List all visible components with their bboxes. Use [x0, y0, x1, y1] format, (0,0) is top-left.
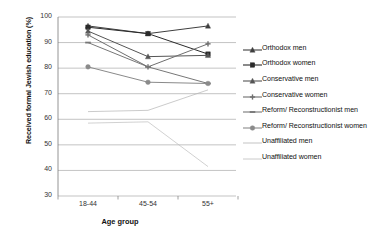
x-axis-title: Age group [0, 217, 240, 226]
legend-item[interactable]: Unaffiliated men [243, 134, 383, 150]
legend-marker-icon [243, 120, 262, 132]
data-point-marker [86, 65, 91, 70]
series-line [88, 35, 208, 67]
legend-item-label: Conservative men [262, 75, 318, 83]
chart-legend: Orthodox menOrthodox womenConservative m… [243, 40, 383, 165]
legend-marker-icon [243, 151, 262, 163]
legend-item[interactable]: Unaffiliated women [243, 149, 383, 165]
data-point-marker [250, 125, 255, 130]
series-line [88, 122, 208, 167]
data-point-marker [250, 63, 254, 67]
series-orthodox-women [86, 25, 210, 56]
series-unaffiliated-men [88, 90, 208, 112]
series-line [88, 90, 208, 112]
legend-item[interactable]: Conservative women [243, 87, 383, 103]
legend-item-label: Reform/ Reconstructionist women [262, 122, 367, 130]
legend-marker-icon [243, 135, 262, 147]
data-point-marker [205, 23, 210, 28]
legend-item[interactable]: Reform/ Reconstructionist men [243, 102, 383, 118]
legend-item-label: Orthodox women [262, 59, 315, 67]
data-point-marker [146, 80, 151, 85]
legend-item-label: Unaffiliated women [262, 153, 321, 161]
legend-item-label: Unaffiliated men [262, 137, 312, 145]
series-line [88, 43, 208, 84]
legend-item-label: Conservative women [262, 91, 327, 99]
legend-item[interactable]: Reform/ Reconstructionist women [243, 118, 383, 134]
legend-item[interactable]: Orthodox women [243, 56, 383, 72]
legend-item-label: Reform/ Reconstructionist men [262, 106, 358, 114]
data-point-marker [146, 31, 150, 35]
legend-marker-icon [243, 57, 262, 69]
data-point-marker [206, 81, 211, 86]
legend-marker-icon [243, 89, 262, 101]
series-unaffiliated-women [88, 122, 208, 167]
legend-marker-icon [243, 73, 262, 85]
legend-marker-icon [243, 104, 262, 116]
legend-item-label: Orthodox men [262, 44, 306, 52]
legend-item[interactable]: Orthodox men [243, 40, 383, 56]
legend-item[interactable]: Conservative men [243, 71, 383, 87]
legend-marker-icon [243, 42, 262, 54]
chart-container: Received formal Jewish education (%) 304… [0, 0, 383, 235]
